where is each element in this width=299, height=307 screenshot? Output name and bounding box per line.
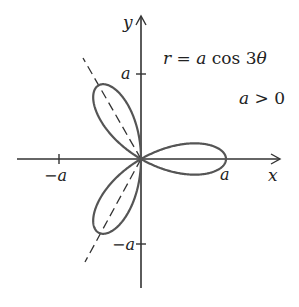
y-axis-label: y <box>122 12 133 32</box>
condition-label: a > 0 <box>239 88 285 108</box>
polar-rose-figure: y x a −a a −a r = a cos 3θ a > 0 <box>0 0 299 307</box>
y-neg-tick-label: −a <box>112 235 135 254</box>
x-axis-label: x <box>268 165 278 185</box>
equation-label: r = a cos 3θ <box>163 48 267 68</box>
y-pos-tick-label: a <box>121 64 131 83</box>
x-neg-tick-label: −a <box>44 166 67 185</box>
x-pos-tick-label: a <box>220 165 230 184</box>
